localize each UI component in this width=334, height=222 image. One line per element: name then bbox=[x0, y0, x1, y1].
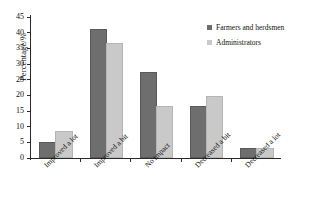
bar bbox=[140, 72, 158, 158]
legend-label: Administrators bbox=[216, 37, 261, 48]
legend-swatch bbox=[207, 40, 212, 45]
bar bbox=[90, 29, 108, 158]
chart-legend: Farmers and herdsmenAdministrators bbox=[207, 22, 284, 52]
legend-swatch bbox=[207, 25, 212, 30]
legend-label: Farmers and herdsmen bbox=[216, 22, 284, 33]
bar-chart: Percentage/% 051015202530354045 Improved… bbox=[0, 0, 334, 222]
legend-item: Administrators bbox=[207, 37, 284, 48]
legend-item: Farmers and herdsmen bbox=[207, 22, 284, 33]
